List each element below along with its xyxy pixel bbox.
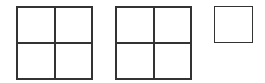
grid-2x2-left xyxy=(16,6,93,80)
cell xyxy=(17,7,55,43)
cell xyxy=(116,7,154,43)
cell xyxy=(154,7,192,43)
cell xyxy=(55,7,93,43)
cell xyxy=(116,43,154,79)
cell xyxy=(154,43,192,79)
cell xyxy=(55,43,93,79)
single-square xyxy=(214,6,253,43)
grid-2x2-middle xyxy=(115,6,192,80)
cell xyxy=(17,43,55,79)
